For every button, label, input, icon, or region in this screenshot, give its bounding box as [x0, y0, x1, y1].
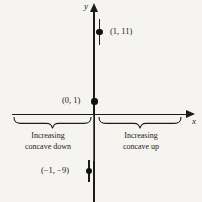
region-caption-right-line1: Increasing	[101, 130, 181, 141]
region-divider-line	[93, 115, 94, 161]
y-axis-arrow-icon	[90, 3, 98, 12]
region-caption-left: Increasing concave down	[10, 130, 86, 152]
brace-left-region	[13, 117, 92, 128]
point-label-0-1: (0, 1)	[62, 96, 80, 105]
point-label-neg1-neg9: (−1, −9)	[41, 166, 69, 175]
brace-right-region	[98, 117, 182, 128]
point-label-1-11: (1, 11)	[110, 27, 132, 36]
calculus-figure: y x (1, 11) (0, 1) (−1, −9) Increasing c…	[0, 0, 202, 202]
point-marker-dot	[91, 98, 98, 105]
point-marker-dot	[96, 29, 103, 36]
region-caption-left-line1: Increasing	[10, 130, 86, 141]
x-axis-label: x	[192, 117, 196, 126]
point-marker-dot	[86, 168, 93, 175]
y-axis-label: y	[84, 2, 88, 11]
region-caption-right-line2: concave up	[101, 141, 181, 152]
region-caption-right: Increasing concave up	[101, 130, 181, 152]
region-caption-left-line2: concave down	[10, 141, 86, 152]
x-axis-line	[12, 114, 190, 115]
